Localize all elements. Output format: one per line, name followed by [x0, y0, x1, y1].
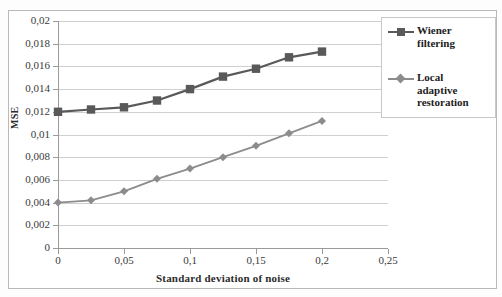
data-point-square [186, 85, 194, 93]
legend-label-line-3: restoration [417, 96, 491, 109]
series-wiener-filtering [54, 47, 326, 116]
legend-item-local-adaptive-restoration: Local adaptive restoration [386, 71, 491, 109]
legend-swatch-diamond [388, 74, 414, 84]
legend-label-line-1: Wiener [417, 24, 491, 37]
data-point-square [54, 108, 62, 116]
data-point-square [252, 65, 260, 73]
legend-label-wiener-filtering: Wiener filtering [417, 24, 491, 49]
data-point-diamond [285, 129, 293, 137]
data-point-diamond [318, 117, 326, 125]
data-point-square [87, 105, 95, 113]
chart-figure: 0,020,0180,0160,0140,0120,010,0080,0060,… [0, 0, 502, 297]
legend-label-line-1: Local [417, 71, 491, 84]
data-point-diamond [120, 187, 128, 195]
chart-legend: Wiener filtering Local adaptive restorat… [381, 17, 496, 118]
series-local-adaptive-restoration [54, 117, 326, 207]
x-axis-title: Standard deviation of noise [58, 272, 388, 284]
legend-label-local-adaptive-restoration: Local adaptive restoration [417, 71, 491, 109]
legend-item-wiener-filtering: Wiener filtering [386, 24, 491, 49]
data-point-square [285, 53, 293, 61]
data-point-square [318, 47, 326, 55]
data-point-square [120, 103, 128, 111]
data-point-diamond [186, 165, 194, 173]
legend-swatch-square [388, 27, 414, 37]
series-line [58, 52, 322, 112]
series-line [58, 121, 322, 203]
legend-label-line-2: adaptive [417, 84, 491, 97]
data-point-diamond [153, 175, 161, 183]
data-point-square [153, 96, 161, 104]
legend-label-line-2: filtering [417, 37, 491, 50]
data-point-diamond [252, 142, 260, 150]
data-point-square [219, 72, 227, 80]
data-point-diamond [219, 153, 227, 161]
y-axis-title: MSE [9, 106, 20, 129]
data-point-diamond [87, 196, 95, 204]
data-point-diamond [54, 199, 62, 207]
